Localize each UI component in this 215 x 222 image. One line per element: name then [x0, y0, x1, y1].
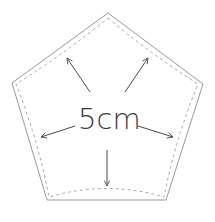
arrow-left-icon — [41, 126, 75, 137]
pentagon-diagram: 5cm — [0, 0, 215, 222]
arrow-up-right-icon — [125, 58, 148, 92]
arrow-right-icon — [138, 126, 173, 137]
arrow-up-left-icon — [67, 58, 90, 92]
dimension-label: 5cm — [78, 102, 136, 136]
